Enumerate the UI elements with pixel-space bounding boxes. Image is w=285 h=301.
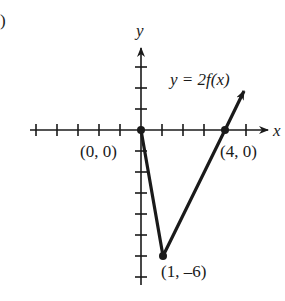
point-minimum	[159, 252, 167, 260]
curve-label: y = 2f(x)	[168, 70, 230, 89]
y-axis-label: y	[134, 21, 144, 40]
point-x-intercept	[221, 126, 229, 134]
x-axis-label: x	[272, 121, 281, 140]
part-marker: )	[0, 11, 6, 30]
curve-label-prefix: y = 2	[168, 70, 207, 89]
curve-label-arg: (x)	[211, 70, 230, 89]
graph-line	[141, 91, 244, 256]
y-axis	[135, 48, 147, 285]
point-origin	[137, 126, 145, 134]
point-label-minimum: (1, –6)	[161, 262, 206, 281]
graph: ) y x y = 2f(x) (0, 0) (1, –6) (4, 0)	[0, 0, 285, 301]
x-axis	[30, 124, 268, 136]
point-label-x-intercept: (4, 0)	[220, 142, 257, 161]
point-label-origin: (0, 0)	[80, 142, 117, 161]
